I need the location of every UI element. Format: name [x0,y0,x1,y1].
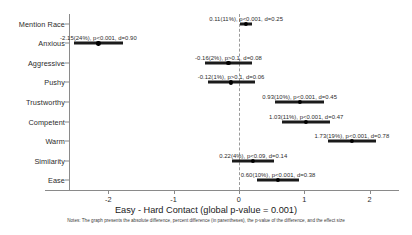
chart-footnote: Notes: The graph presents the absolute d… [0,218,412,223]
x-axis-tick [174,190,175,194]
y-axis-tick [65,160,69,161]
coefficient-plot: Mention Race0.11(11%), p<0.001, d=0.25An… [0,0,412,235]
point-annotation: 0.60(10%), p<0.001, d=0.38 [241,172,316,178]
x-axis-title: Easy - Hard Contact (global p-value = 0.… [0,205,412,215]
y-axis-label-warm: Warm [45,137,65,146]
point-annotation: 1.73(19%), p<0.001, d=0.78 [315,133,390,139]
y-axis-tick [65,62,69,63]
y-axis-label-trustworthy: Trustworthy [26,98,65,107]
point-annotation: 0.22(4%), p<0.09, d=0.14 [219,153,287,159]
y-axis-label-ease: Ease [48,176,65,185]
y-axis-tick [65,121,69,122]
y-axis-label-mention-race: Mention Race [19,19,65,28]
x-axis-tick-label: 0 [237,195,241,204]
point-annotation: 0.11(11%), p<0.001, d=0.25 [209,16,283,22]
x-axis-tick [239,190,240,194]
x-axis-tick-label: -2 [105,195,112,204]
x-axis-tick [370,190,371,194]
y-axis-label-aggressive: Aggressive [28,58,65,67]
y-axis-label-competent: Competent [28,117,65,126]
y-axis-tick [65,141,69,142]
point-annotation: 1.03(11%), p<0.001, d=0.47 [269,114,343,120]
zero-reference-line [239,14,240,190]
y-axis-tick [65,43,69,44]
x-axis-tick-label: 1 [302,195,306,204]
point-annotation: 0.93(10%), p<0.001, d=0.45 [262,94,337,100]
x-axis-tick [304,190,305,194]
point-annotation: -0.16(2%), p>0.1, d=0.08 [195,55,262,61]
y-axis-tick [65,23,69,24]
point-annotation: -2.15(24%), p<0.001, d=0.90 [60,35,137,41]
y-axis-tick [65,82,69,83]
y-axis-tick [65,180,69,181]
y-axis-label-pushy: Pushy [44,78,65,87]
point-annotation: -0.12(1%), p>0.1, d=0.06 [198,74,265,80]
y-axis-tick [65,102,69,103]
y-axis-label-similarity: Similarity [34,156,65,165]
x-axis-tick-label: -1 [170,195,177,204]
x-axis-spine [45,190,399,191]
x-axis-tick-label: 2 [368,195,372,204]
x-axis-tick [108,190,109,194]
